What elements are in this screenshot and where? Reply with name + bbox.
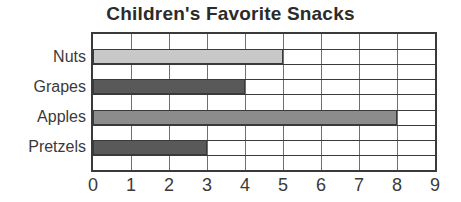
x-tick-label: 7 bbox=[346, 174, 372, 196]
category-label-pretzels: Pretzels bbox=[0, 139, 86, 155]
x-tick-label: 3 bbox=[194, 174, 220, 196]
bar-grapes bbox=[93, 79, 245, 94]
category-label-nuts: Nuts bbox=[0, 49, 86, 65]
x-tick-label: 1 bbox=[118, 174, 144, 196]
x-tick-label: 2 bbox=[156, 174, 182, 196]
gridline-vertical bbox=[321, 34, 322, 170]
gridline-vertical bbox=[397, 34, 398, 170]
category-label-apples: Apples bbox=[0, 109, 86, 125]
gridline-horizontal bbox=[93, 94, 435, 95]
gridline-vertical bbox=[283, 34, 284, 170]
gridline-horizontal bbox=[93, 155, 435, 156]
x-tick-label: 0 bbox=[80, 174, 106, 196]
bar-pretzels bbox=[93, 140, 207, 155]
x-tick-label: 6 bbox=[308, 174, 334, 196]
bar-apples bbox=[93, 110, 397, 125]
gridline-vertical bbox=[359, 34, 360, 170]
x-tick-label: 9 bbox=[422, 174, 448, 196]
x-tick-label: 8 bbox=[384, 174, 410, 196]
x-axis-tick-labels: 0123456789 bbox=[91, 174, 437, 200]
bar-chart-figure: Children's Favorite Snacks NutsGrapesApp… bbox=[0, 0, 461, 202]
gridline-horizontal bbox=[93, 64, 435, 65]
category-label-grapes: Grapes bbox=[0, 79, 86, 95]
x-tick-label: 5 bbox=[270, 174, 296, 196]
gridline-horizontal bbox=[93, 125, 435, 126]
bar-nuts bbox=[93, 49, 283, 64]
category-axis-labels: NutsGrapesApplesPretzels bbox=[0, 32, 86, 172]
x-tick-label: 4 bbox=[232, 174, 258, 196]
plot-area bbox=[91, 32, 437, 172]
chart-title: Children's Favorite Snacks bbox=[0, 2, 461, 26]
